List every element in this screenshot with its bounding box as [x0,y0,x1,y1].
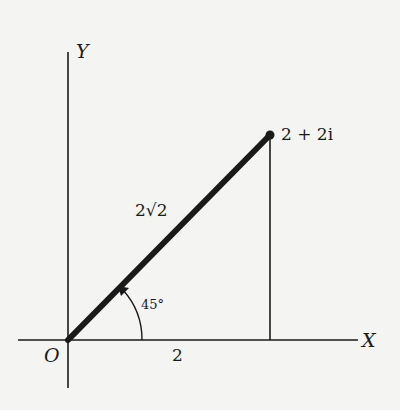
angle-arc [123,290,142,340]
y-axis-label: Y [76,40,89,62]
x-axis-label: X [362,329,376,351]
modulus-label: 2√2 [135,200,167,220]
tick-label: 2 [172,345,183,365]
point-marker [266,131,275,140]
origin-label: O [44,344,60,366]
angle-label: 45° [141,297,164,312]
diagram-graphics [0,0,400,410]
argand-diagram: Y X O 2 45° 2√2 2 + 2i [0,0,400,410]
modulus-vector [68,135,270,340]
point-label: 2 + 2i [281,124,333,144]
